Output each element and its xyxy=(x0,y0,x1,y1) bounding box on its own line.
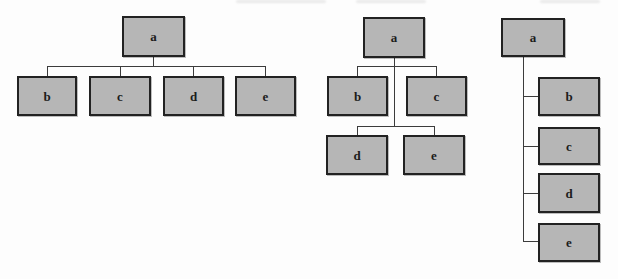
node-label: d xyxy=(565,187,572,200)
connector-stub xyxy=(523,146,538,147)
node-c: c xyxy=(538,127,600,165)
connector-drop xyxy=(523,57,524,242)
node-label: b xyxy=(565,90,572,103)
node-label: e xyxy=(566,236,572,249)
node-a: a xyxy=(501,18,565,57)
connector-stub xyxy=(523,193,538,194)
node-label: c xyxy=(566,140,572,153)
connector-stub xyxy=(523,96,538,97)
diagram-vertical-list: a b c d e xyxy=(0,0,618,279)
node-d: d xyxy=(538,173,600,213)
connector-stub xyxy=(523,241,538,242)
node-label: a xyxy=(530,31,537,44)
figure-canvas: a b c d e a b c d xyxy=(0,0,618,279)
node-b: b xyxy=(538,77,600,116)
node-e: e xyxy=(538,223,600,262)
